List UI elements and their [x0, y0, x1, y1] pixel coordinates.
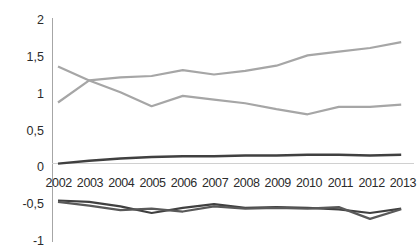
x-tick-label: 2013	[387, 176, 418, 192]
x-tick-label: 2002	[43, 176, 74, 192]
x-tick-label: 2009	[262, 176, 293, 192]
x-tick-label: 2006	[168, 176, 199, 192]
x-tick-label: 2007	[199, 176, 230, 192]
x-tick-label: 2012	[356, 176, 387, 192]
x-axis-labels: 2002200320042005200620072008200920102011…	[43, 176, 419, 192]
x-tick-label: 2008	[231, 176, 262, 192]
x-tick-label: 2005	[137, 176, 168, 192]
x-tick-label: 2003	[74, 176, 105, 192]
x-tick-label: 2004	[106, 176, 137, 192]
x-tick-label: 2010	[293, 176, 324, 192]
series-line-series-1	[58, 42, 401, 102]
series-line-series-3	[58, 155, 401, 164]
x-tick-label: 2011	[325, 176, 356, 192]
chart-container: 21,510,50-0,5-1 200220032004200520062007…	[0, 0, 419, 252]
plot-area	[0, 0, 419, 252]
